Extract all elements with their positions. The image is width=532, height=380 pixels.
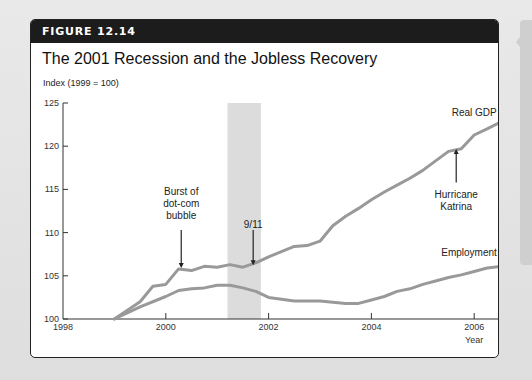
arrow-head-icon xyxy=(179,263,184,268)
figure-box: FIGURE 12.14 The 2001 Recession and the … xyxy=(30,19,499,358)
label-real-gdp: Real GDP xyxy=(452,107,497,118)
x-tick-label: 2004 xyxy=(361,322,381,332)
y-tick-label: 125 xyxy=(44,98,59,108)
x-tick-label: 2000 xyxy=(156,322,176,332)
y-tick-label: 105 xyxy=(44,271,59,281)
annotation-dotcom: dot-com xyxy=(163,198,199,209)
x-tick-label: 2002 xyxy=(259,322,279,332)
annotation-katrina: Katrina xyxy=(440,201,472,212)
y-tick-label: 120 xyxy=(44,141,59,151)
label-employment: Employment xyxy=(441,247,497,258)
annotation-dotcom: Burst of xyxy=(164,186,199,197)
annotation-dotcom: bubble xyxy=(166,210,196,221)
annotation-911: 9/11 xyxy=(244,219,263,230)
x-tick-label: 2006 xyxy=(464,322,484,332)
x-axis-title: Year xyxy=(465,335,483,345)
sidebar-tab[interactable] xyxy=(520,20,532,265)
y-tick-label: 115 xyxy=(45,184,59,194)
employment-line xyxy=(114,266,499,319)
x-tick-label: 1998 xyxy=(53,322,73,332)
annotation-katrina: Hurricane xyxy=(435,189,479,200)
line-chart: 10010511011512012519982000200220042006Ye… xyxy=(31,20,499,358)
y-tick-label: 110 xyxy=(45,228,59,238)
